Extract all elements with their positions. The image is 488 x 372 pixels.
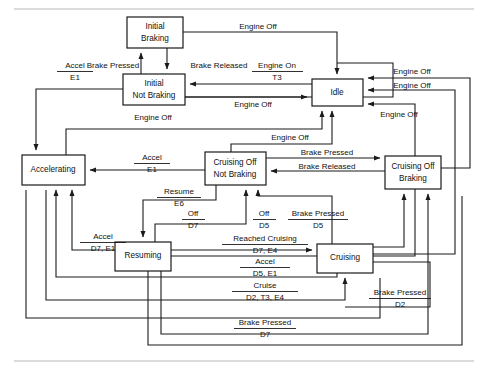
transition-event: Accel <box>142 153 162 162</box>
transition-event: Accel <box>65 61 85 70</box>
transition-action: D7 <box>260 330 271 339</box>
transition-label-engine-off-r2: Engine Off <box>393 81 431 90</box>
transition-event: Accel <box>93 232 113 241</box>
transition-action: D2, T3, E4 <box>246 293 285 302</box>
state-resuming[interactable]: Resuming <box>115 242 171 271</box>
transition-label-brake-pressed-co: Brake Pressed <box>301 148 353 157</box>
transition-event: Engine Off <box>271 133 309 142</box>
transition-label-off-d7: Off D7 <box>182 209 205 230</box>
state-label-line: Cruising <box>330 253 360 262</box>
state-cruising[interactable]: Cruising <box>317 244 373 273</box>
transition-event: Cruise <box>253 281 277 290</box>
transition-event: Brake Pressed <box>292 209 344 218</box>
transition-event: Engine Off <box>134 113 172 122</box>
edge-accel-e1-top <box>36 89 123 150</box>
transition-action: E6 <box>174 199 184 208</box>
state-label-line: Accelerating <box>30 165 76 174</box>
transition-label-brake-released-top: Brake Released <box>191 61 248 70</box>
transition-event: Brake Released <box>191 61 248 70</box>
transition-label-engine-off-r1: Engine Off <box>393 67 431 76</box>
edge-brake-pressed-d5 <box>373 194 404 247</box>
state-accelerating[interactable]: Accelerating <box>22 155 85 185</box>
transition-event: Engine Off <box>393 81 431 90</box>
transition-label-engine-off-accel: Engine Off <box>134 113 172 122</box>
state-label-line: Initial <box>144 79 163 88</box>
transition-action: D2 <box>395 300 406 309</box>
state-label-line: Idle <box>330 88 344 97</box>
transition-action: D7, E1 <box>91 244 116 253</box>
edge-accel-d7-e1 <box>72 190 115 250</box>
state-label-line: Not Braking <box>133 91 176 100</box>
transition-event: Engine On <box>258 61 296 70</box>
transition-event: Reached Cruising <box>233 234 297 243</box>
state-label-line: Cruising Off <box>213 158 257 167</box>
transition-label-engine-off-ib: Engine Off <box>239 22 277 31</box>
state-label-line: Not Braking <box>214 170 257 179</box>
transition-label-engine-off-inb: Engine Off <box>234 100 272 109</box>
state-label-line: Braking <box>141 34 169 43</box>
edge-engine-off-accel <box>66 111 322 185</box>
transition-event: Brake Pressed <box>87 61 139 70</box>
transition-action: D5, E1 <box>253 269 278 278</box>
state-label-line: Resuming <box>125 251 162 260</box>
state-label-line: Cruising Off <box>391 162 435 171</box>
state-diagram-svg: Initial Braking Initial Not Braking Idle… <box>0 0 488 372</box>
transition-event: Engine Off <box>239 22 277 31</box>
transition-label-cruise: Cruise D2, T3, E4 <box>232 281 298 302</box>
transition-label-reached-cruising: Reached Cruising D7, E4 <box>222 234 308 255</box>
transition-event: Resume <box>164 187 194 196</box>
transition-event: Engine Off <box>234 100 272 109</box>
state-initial-not-braking[interactable]: Initial Not Braking <box>123 74 185 105</box>
transition-event: Brake Pressed <box>374 288 426 297</box>
state-cruising-off-not-braking[interactable]: Cruising Off Not Braking <box>205 152 266 185</box>
transition-action: D7, E4 <box>253 246 278 255</box>
state-idle[interactable]: Idle <box>312 79 363 106</box>
transition-label-engine-off-mid: Engine Off <box>271 133 309 142</box>
transition-label-accel-d5-e1: Accel D5, E1 <box>240 257 290 278</box>
transition-action: E1 <box>70 73 80 82</box>
transition-event: Brake Pressed <box>239 318 291 327</box>
transition-event: Off <box>188 209 199 218</box>
transition-action: D5 <box>259 221 270 230</box>
transition-label-engine-off-r3: Engine Off <box>380 110 418 119</box>
transition-label-engine-on: Engine On T3 <box>252 61 303 82</box>
transition-label-brake-pressed-d2: Brake Pressed D2 <box>369 288 431 309</box>
edge-engine-off-mid <box>231 111 332 152</box>
transition-label-brake-pressed-d7: Brake Pressed D7 <box>234 318 296 339</box>
transition-event: Brake Pressed <box>301 148 353 157</box>
transition-action: D7 <box>188 221 199 230</box>
transition-label-off-d5: Off D5 <box>253 209 276 230</box>
transition-action: T3 <box>272 73 282 82</box>
state-cruising-off-braking[interactable]: Cruising Off Braking <box>385 156 441 189</box>
transition-action: E1 <box>147 165 157 174</box>
transition-event: Engine Off <box>380 110 418 119</box>
transition-label-brake-pressed-d5: Brake Pressed D5 <box>288 209 348 230</box>
transition-event: Brake Released <box>299 162 356 171</box>
transition-label-brake-released-co: Brake Released <box>299 162 356 171</box>
state-diagram-canvas: Initial Braking Initial Not Braking Idle… <box>0 0 488 372</box>
transition-label-brake-pressed-top: Brake Pressed <box>87 61 139 70</box>
transition-action: D5 <box>313 221 324 230</box>
transition-event: Off <box>259 209 270 218</box>
transition-event: Accel <box>255 257 275 266</box>
transition-label-resume-e6: Resume E6 <box>157 187 201 208</box>
state-initial-braking[interactable]: Initial Braking <box>127 17 183 48</box>
state-label-line: Braking <box>399 174 427 183</box>
state-label-line: Initial <box>145 22 164 31</box>
transition-event: Engine Off <box>393 67 431 76</box>
transition-label-accel-e1-mid: Accel E1 <box>134 153 170 174</box>
